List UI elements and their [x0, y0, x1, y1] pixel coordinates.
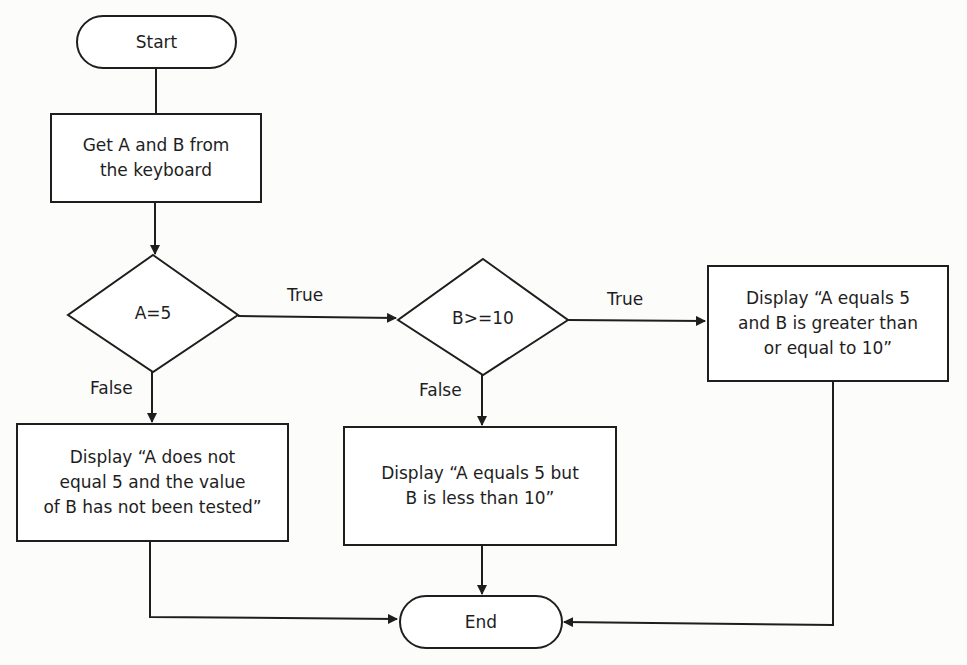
input-label-line2: the keyboard	[100, 158, 212, 183]
edge-label-b-false: False	[419, 380, 462, 400]
display-both-box: Display “A equals 5 and B is greater tha…	[707, 265, 949, 382]
end-terminal: End	[399, 595, 563, 649]
edge-label-b-true: True	[607, 289, 643, 309]
display-a-not-line2: equal 5 and the value	[60, 470, 246, 495]
decision-a-label: A=5	[113, 303, 193, 323]
display-a-not-line1: Display “A does not	[70, 445, 235, 470]
display-a-not-box: Display “A does not equal 5 and the valu…	[16, 423, 289, 542]
display-both-line2: and B is greater than	[738, 311, 918, 336]
display-b-less-line2: B is less than 10”	[406, 486, 555, 511]
input-process-box: Get A and B from the keyboard	[50, 113, 262, 203]
edge-label-a-true: True	[287, 285, 323, 305]
edge-label-a-false: False	[90, 378, 133, 398]
display-both-line1: Display “A equals 5	[746, 286, 910, 311]
display-a-not-line3: of B has not been tested”	[43, 495, 261, 520]
end-label: End	[465, 610, 497, 635]
start-label: Start	[136, 30, 178, 55]
decision-b-label: B>=10	[438, 308, 528, 328]
display-b-less-box: Display “A equals 5 but B is less than 1…	[343, 426, 617, 546]
input-label-line1: Get A and B from	[83, 133, 230, 158]
display-b-less-line1: Display “A equals 5 but	[381, 461, 579, 486]
display-both-line3: or equal to 10”	[764, 336, 892, 361]
start-terminal: Start	[76, 15, 237, 69]
